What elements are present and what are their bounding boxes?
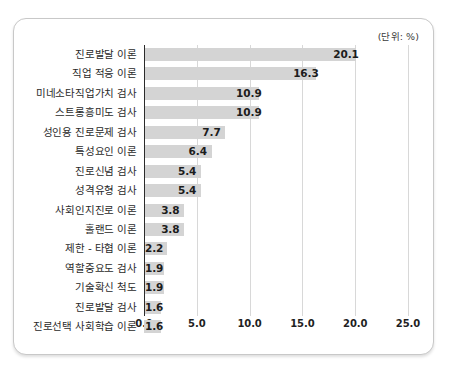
category-label: 진로신념 검사 <box>75 164 137 178</box>
bar-row[interactable]: 진로선택 사회학습 이론1.6 <box>144 317 408 336</box>
bar-value-label: 3.8 <box>161 222 179 236</box>
bar[interactable] <box>144 67 316 80</box>
bar-row[interactable]: 진로발달 검사1.6 <box>144 298 408 317</box>
category-label: 기술확신 척도 <box>75 280 137 294</box>
bar-row[interactable]: 역할중요도 검사1.9 <box>144 259 408 278</box>
bar-value-label: 1.9 <box>145 261 163 275</box>
gridline <box>408 45 409 316</box>
chart-card: (단위: %) 진로발달 이론20.1직업 적응 이론16.3미네소타직업가치 … <box>13 18 434 355</box>
bar-value-label: 5.4 <box>178 183 196 197</box>
category-label: 제한 - 타협 이론 <box>65 241 137 255</box>
category-label: 진로선택 사회학습 이론 <box>33 319 137 333</box>
bar-row[interactable]: 성인용 진로문제 검사7.7 <box>144 123 408 142</box>
bar-value-label: 7.7 <box>202 125 220 139</box>
category-label: 성격유형 검사 <box>75 183 137 197</box>
bar-value-label: 10.9 <box>236 105 262 119</box>
unit-note-label: (단위: %) <box>378 29 419 43</box>
category-label: 사회인지진로 이론 <box>55 203 137 217</box>
bar-row[interactable]: 사회인지진로 이론3.8 <box>144 201 408 220</box>
bar-row[interactable]: 미네소타직업가치 검사10.9 <box>144 84 408 103</box>
bar-value-label: 1.6 <box>145 300 163 314</box>
bar-value-label: 5.4 <box>178 164 196 178</box>
bar-row[interactable]: 성격유형 검사5.4 <box>144 181 408 200</box>
bar-row[interactable]: 진로신념 검사5.4 <box>144 162 408 181</box>
category-label: 홀랜드 이론 <box>85 222 137 236</box>
bar-row[interactable]: 기술확신 척도1.9 <box>144 278 408 297</box>
bar-value-label: 3.8 <box>161 203 179 217</box>
category-label: 역할중요도 검사 <box>65 261 137 275</box>
bar-row[interactable]: 스트롱흥미도 검사10.9 <box>144 103 408 122</box>
category-label: 진로발달 이론 <box>75 47 137 61</box>
bar-value-label: 10.9 <box>236 86 262 100</box>
bar-row[interactable]: 직업 적응 이론16.3 <box>144 64 408 83</box>
bar-chart-plot-area: 진로발달 이론20.1직업 적응 이론16.3미네소타직업가치 검사10.9스트… <box>144 45 408 330</box>
category-label: 스트롱흥미도 검사 <box>55 105 137 119</box>
bar-rows-group: 진로발달 이론20.1직업 적응 이론16.3미네소타직업가치 검사10.9스트… <box>144 45 408 316</box>
category-label: 성인용 진로문제 검사 <box>43 125 137 139</box>
bar-value-label: 2.2 <box>145 241 163 255</box>
category-label: 진로발달 검사 <box>75 300 137 314</box>
category-label: 미네소타직업가치 검사 <box>36 86 137 100</box>
bar-value-label: 1.6 <box>145 319 163 333</box>
bar-row[interactable]: 홀랜드 이론3.8 <box>144 220 408 239</box>
bar[interactable] <box>144 48 356 61</box>
bar-row[interactable]: 제한 - 타협 이론2.2 <box>144 239 408 258</box>
category-label: 직업 적응 이론 <box>72 66 137 80</box>
bar-value-label: 16.3 <box>293 66 319 80</box>
category-label: 특성요인 이론 <box>75 144 137 158</box>
bar-row[interactable]: 진로발달 이론20.1 <box>144 45 408 64</box>
value-axis-line <box>144 45 145 316</box>
bar-value-label: 6.4 <box>189 144 207 158</box>
bar-value-label: 20.1 <box>333 47 359 61</box>
bar-row[interactable]: 특성요인 이론6.4 <box>144 142 408 161</box>
bar-value-label: 1.9 <box>145 280 163 294</box>
